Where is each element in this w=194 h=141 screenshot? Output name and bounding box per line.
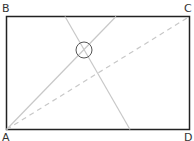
vertex-label-c: C — [184, 2, 192, 15]
crossing-line — [65, 17, 130, 130]
vertex-label-b: B — [2, 2, 10, 15]
vertex-label-d: D — [184, 131, 192, 141]
vertex-label-a: A — [2, 131, 10, 141]
line-from-a — [7, 17, 117, 130]
geometry-diagram: B C A D — [0, 0, 194, 141]
